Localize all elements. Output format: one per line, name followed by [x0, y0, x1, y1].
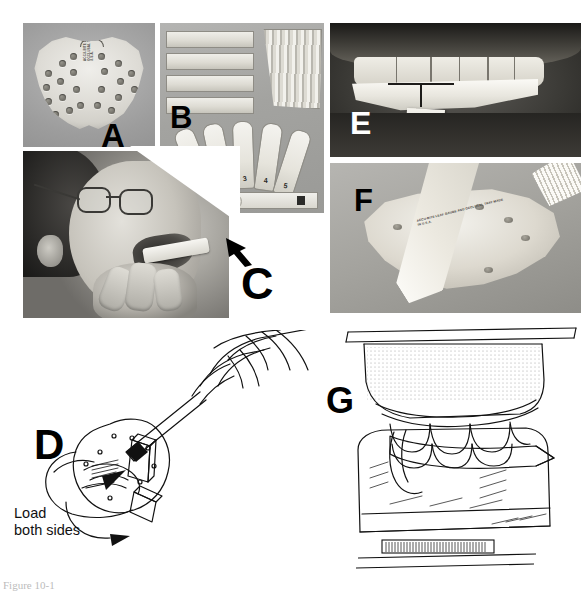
figure-caption: Figure 10-1 — [3, 579, 55, 591]
figure-root: ACCU-BITE LEAF GAUGE AND OCCLUSAL TRAY M… — [0, 0, 588, 591]
scale-bar-ticks — [386, 542, 485, 552]
panel-e-photo: E — [330, 23, 581, 157]
stick-number: 4 — [263, 177, 267, 184]
panel-label-c: C — [241, 261, 273, 306]
panel-label-e: E — [350, 107, 370, 139]
patient-ear — [37, 235, 63, 267]
holder-label-tag — [297, 196, 305, 205]
tray-handle-stem — [90, 25, 92, 39]
wax-wafer-strip — [166, 53, 254, 70]
panel-label-g: G — [326, 383, 353, 419]
panel-f-photo: ACCU-BITE LEAF GAUGE AND OCCLUSAL TRAY M… — [330, 163, 581, 313]
panel-label-d: D — [34, 424, 63, 466]
panel-a-photo: ACCU-BITE LEAF GAUGE AND OCCLUSAL TRAY M… — [23, 23, 155, 147]
panel-g-drawing — [330, 318, 586, 588]
leaf-gauge-fan-stack — [260, 29, 322, 109]
tray-midline-reference — [420, 83, 422, 107]
eyeglasses — [77, 187, 151, 211]
tray-imprint-text: ACCU-BITE LEAF GAUGE AND OCCLUSAL TRAY M… — [84, 23, 95, 61]
wax-wafer-strip — [166, 31, 254, 48]
panel-label-b: B — [170, 102, 191, 133]
load-annotation-line2: both sides — [14, 522, 80, 539]
rotation-arrow-icon — [110, 534, 130, 546]
panel-label-f: F — [354, 185, 372, 216]
stick-number: 5 — [283, 182, 288, 190]
panel-g-illustration — [330, 318, 586, 588]
stick-number: 3 — [242, 175, 247, 183]
registration-tray-occlusal: ACCU-BITE LEAF GAUGE AND OCCLUSAL TRAY M… — [31, 35, 147, 133]
load-annotation-line1: Load — [14, 505, 46, 522]
panel-label-a: A — [101, 119, 124, 147]
wax-wafer-strip — [166, 75, 254, 92]
